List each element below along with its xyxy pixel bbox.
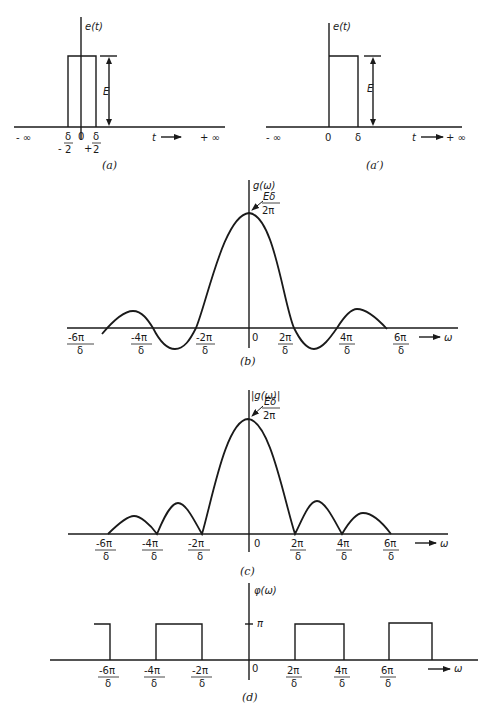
arrow-up-icon <box>370 57 376 64</box>
xlabel: ω <box>440 538 448 549</box>
phase-step <box>389 623 432 660</box>
svg-text:-4π: -4π <box>131 332 147 343</box>
height-label: E <box>103 86 110 97</box>
right-edge-sign: + <box>84 143 92 154</box>
svg-text:δ: δ <box>282 345 288 356</box>
tick-label: 4π δ <box>339 332 355 356</box>
tick-label: -4π δ <box>131 332 152 356</box>
svg-text:-6π: -6π <box>68 332 84 343</box>
panel-a-prime: e(t) E - ∞ + ∞ 0 δ t (a′) <box>266 21 466 172</box>
xlabel: ω <box>444 332 452 343</box>
svg-text:δ: δ <box>197 551 203 562</box>
xlabel: t <box>152 132 157 143</box>
rect-pulse <box>68 56 96 127</box>
svg-text:2π: 2π <box>279 332 291 343</box>
tick-label: 2π δ <box>278 332 293 356</box>
phase-step <box>94 624 110 660</box>
svg-text:δ: δ <box>341 551 347 562</box>
svg-text:δ: δ <box>398 345 404 356</box>
origin-label: 0 <box>254 538 260 549</box>
tick-label: -4π δ <box>144 665 165 689</box>
tick-label: 6π δ <box>383 538 399 562</box>
svg-text:-6π: -6π <box>96 538 112 549</box>
svg-text:4π: 4π <box>337 538 349 549</box>
origin-label: 0 <box>252 332 258 343</box>
svg-text:δ: δ <box>151 551 157 562</box>
panel-a: e(t) E - ∞ + ∞ 0 - δ 2 + δ 2 t (a) <box>14 17 225 172</box>
panel-d: φ(ω) π 0 -6π δ -4π δ -2π δ 2π δ 4π δ <box>50 583 478 704</box>
tick-label: -2π δ <box>191 665 212 689</box>
svg-text:δ: δ <box>105 678 111 689</box>
svg-text:4π: 4π <box>335 665 347 676</box>
ylabel: φ(ω) <box>254 585 277 596</box>
right-edge-den: 2 <box>93 144 99 155</box>
svg-text:δ: δ <box>385 678 391 689</box>
svg-text:δ: δ <box>138 345 144 356</box>
svg-text:δ: δ <box>202 345 208 356</box>
tick-label: 6π δ <box>380 665 396 689</box>
svg-text:δ: δ <box>199 678 205 689</box>
svg-text:-2π: -2π <box>192 665 208 676</box>
left-edge-den: 2 <box>65 144 71 155</box>
left-infinity: - ∞ <box>266 132 281 143</box>
height-label: E <box>367 83 374 94</box>
pi-label: π <box>257 618 264 629</box>
xlabel: t <box>412 132 417 143</box>
svg-text:-4π: -4π <box>142 538 158 549</box>
origin-label: 0 <box>78 131 84 142</box>
phase-step <box>295 624 344 660</box>
left-edge-sign: - <box>58 143 62 154</box>
peak-pointer <box>252 406 263 416</box>
tick-label: 4π δ <box>334 665 350 689</box>
peak-num: Eδ <box>263 191 275 202</box>
ylabel: e(t) <box>333 21 351 32</box>
svg-text:δ: δ <box>151 678 157 689</box>
svg-text:δ: δ <box>291 678 297 689</box>
tick-label: -4π δ <box>142 538 163 562</box>
origin-label: 0 <box>325 132 331 143</box>
tick-label: -6π δ <box>95 538 116 562</box>
tick-label: -2π δ <box>188 538 210 562</box>
rect-pulse <box>329 56 358 127</box>
tick-label: 2π δ <box>290 538 306 562</box>
right-infinity: + ∞ <box>200 132 220 143</box>
svg-text:2π: 2π <box>291 538 303 549</box>
svg-text:δ: δ <box>103 551 109 562</box>
diagram-canvas: e(t) E - ∞ + ∞ 0 - δ 2 + δ 2 t (a) e(t) … <box>0 0 498 710</box>
svg-text:-2π: -2π <box>188 538 204 549</box>
caption: (a) <box>102 159 117 172</box>
left-infinity: - ∞ <box>16 132 31 143</box>
svg-text:6π: 6π <box>381 665 393 676</box>
svg-text:-4π: -4π <box>144 665 160 676</box>
svg-text:δ: δ <box>77 345 83 356</box>
svg-text:2π: 2π <box>287 665 299 676</box>
tick-label: -2π δ <box>196 332 215 356</box>
svg-text:-6π: -6π <box>99 665 115 676</box>
svg-text:6π: 6π <box>394 332 406 343</box>
caption: (b) <box>240 355 256 368</box>
svg-text:δ: δ <box>295 551 301 562</box>
svg-text:6π: 6π <box>384 538 396 549</box>
phase-step <box>156 624 202 660</box>
ylabel: e(t) <box>85 21 103 32</box>
right-infinity: + ∞ <box>446 132 466 143</box>
peak-den: 2π <box>262 205 274 216</box>
tick-label: 6π δ <box>393 332 409 356</box>
caption: (c) <box>240 565 255 578</box>
peak-num: Eδ <box>264 396 276 407</box>
tick-label: 2π δ <box>286 665 302 689</box>
right-edge-num: δ <box>93 131 99 142</box>
svg-text:δ: δ <box>344 345 350 356</box>
left-edge-num: δ <box>65 131 71 142</box>
origin-label: 0 <box>252 663 258 674</box>
peak-den: 2π <box>263 410 275 421</box>
caption: (a′) <box>366 159 384 172</box>
tick-label: 4π δ <box>336 538 352 562</box>
tick-label: -6π δ <box>67 332 94 356</box>
svg-text:4π: 4π <box>340 332 352 343</box>
tick-label: -6π δ <box>98 665 119 689</box>
svg-text:δ: δ <box>339 678 345 689</box>
panel-b: g(ω) Eδ 2π 0 -6π δ -4π δ -2π δ 2π δ 4π δ <box>67 180 458 368</box>
arrow-down-icon <box>106 119 112 126</box>
arrow-down-icon <box>370 119 376 126</box>
